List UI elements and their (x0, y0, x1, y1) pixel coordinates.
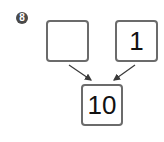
arrow-left-icon (69, 65, 91, 80)
arrow-right-icon (114, 65, 135, 80)
arrows (0, 0, 164, 142)
